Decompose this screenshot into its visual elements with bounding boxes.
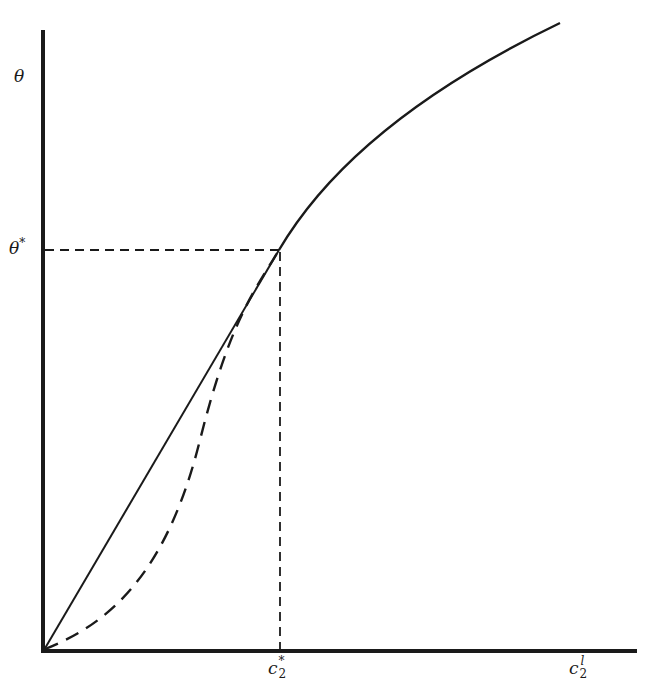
- solid-concave-curve: [279, 23, 560, 250]
- figure: θ θ* c*2 cl2: [0, 0, 649, 691]
- y-axis-label: θ: [14, 68, 24, 85]
- theta-star-label: θ*: [9, 240, 25, 257]
- diagram-canvas: [0, 0, 649, 691]
- c2-star-label: c*2: [268, 660, 288, 677]
- c2-l-label: cl2: [569, 660, 589, 677]
- solid-linear-segment: [44, 250, 279, 650]
